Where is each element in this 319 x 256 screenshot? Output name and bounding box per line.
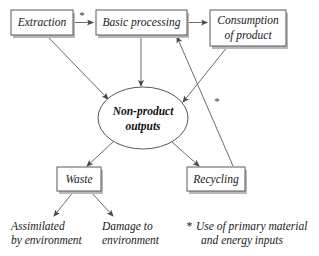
damage-label-line1: Damage to [101, 220, 153, 233]
damage-label-line2: environment [102, 234, 160, 246]
consumption-label-line1: Consumption [217, 14, 279, 27]
legend-line2: and energy inputs [201, 234, 284, 247]
assimilated-label-line2: by environment [11, 234, 83, 247]
consumption-label-line2: of product [224, 29, 272, 42]
star-mark-right: * [214, 95, 220, 107]
non-product-outputs-label-line1: Non-product [112, 105, 175, 118]
assimilated-label-line1: Assimilated [10, 220, 65, 232]
edge-outputs-to-recycling [172, 142, 199, 166]
star-mark-top: * [79, 9, 85, 21]
edge-waste-to-damage [90, 191, 113, 216]
non-product-outputs-ellipse[interactable] [98, 87, 188, 149]
waste-label: Waste [65, 173, 92, 185]
recycling-label: Recycling [192, 173, 239, 186]
diagram-canvas: Extraction Basic processing Consumption … [0, 0, 319, 256]
edge-consumption-to-outputs [183, 46, 228, 102]
edge-extraction-to-outputs [47, 36, 108, 99]
edge-waste-to-assimilated [54, 191, 74, 216]
legend-marker: * [186, 220, 192, 232]
extraction-label: Extraction [17, 16, 67, 28]
edge-outputs-to-waste [87, 142, 113, 166]
non-product-outputs-label-line2: outputs [125, 120, 161, 133]
edge-recycling-to-basic-processing [177, 37, 233, 166]
legend-line1: Use of primary material [196, 220, 307, 233]
basic-processing-label: Basic processing [103, 16, 181, 29]
diagram-svg: Extraction Basic processing Consumption … [0, 0, 319, 256]
